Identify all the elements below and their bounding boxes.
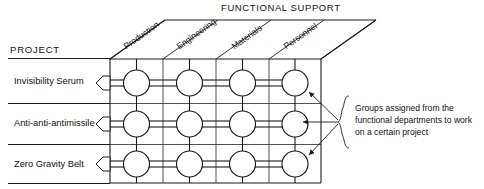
node-circle-r1c3 — [230, 70, 256, 96]
column-label-personnel-group: Personnel — [282, 21, 319, 52]
functional-support-header: FUNCTIONAL SUPPORT — [221, 2, 341, 13]
node-circle-r2c2 — [177, 111, 203, 137]
row-arrow-icon-1 — [96, 76, 110, 90]
node-circle-r1c2 — [177, 70, 203, 96]
node-circle-r3c3 — [230, 151, 256, 177]
annotation-line-3: on a certain project — [355, 127, 429, 137]
annotation-brace-icon — [338, 96, 349, 148]
column-label-materials: Materials — [230, 23, 264, 51]
row-label-zero-gravity-belt: Zero Gravity Belt — [14, 159, 84, 169]
annotation-line-2: functional departments to work — [355, 115, 473, 125]
column-label-production-group: Production — [122, 19, 161, 51]
annotation-line-1: Groups assigned from the — [355, 103, 454, 113]
matrix-organization-diagram: FUNCTIONAL SUPPORT PROJECT Invisibility … — [0, 0, 484, 189]
column-label-engineering-group: Engineering — [175, 16, 218, 51]
node-circle-r3c4 — [282, 151, 308, 177]
node-circle-r1c4 — [282, 70, 308, 96]
column-label-engineering: Engineering — [175, 16, 218, 51]
column-label-materials-group: Materials — [230, 23, 264, 51]
row-arrow-markers — [96, 76, 110, 171]
node-circle-r2c1 — [124, 111, 150, 137]
diagram-canvas: FUNCTIONAL SUPPORT PROJECT Invisibility … — [0, 0, 484, 189]
node-circle-r2c4 — [282, 111, 308, 137]
annotation-arrow-top — [309, 92, 338, 120]
project-axis-label: PROJECT — [10, 44, 60, 55]
column-leader-4 — [321, 20, 376, 59]
node-circle-r1c1 — [124, 70, 150, 96]
node-circle-r3c2 — [177, 151, 203, 177]
node-circle-r2c3 — [230, 111, 256, 137]
node-circle-r3c1 — [124, 151, 150, 177]
column-label-personnel: Personnel — [282, 21, 319, 52]
annotation-arrow-bottom — [309, 124, 338, 155]
row-label-invisibility-serum: Invisibility Serum — [14, 76, 84, 86]
column-label-production: Production — [122, 19, 161, 51]
row-label-anti-anti-antimissile: Anti-anti-antimissile — [14, 118, 95, 128]
row-arrow-icon-3 — [96, 157, 110, 171]
row-arrow-icon-2 — [96, 117, 110, 131]
